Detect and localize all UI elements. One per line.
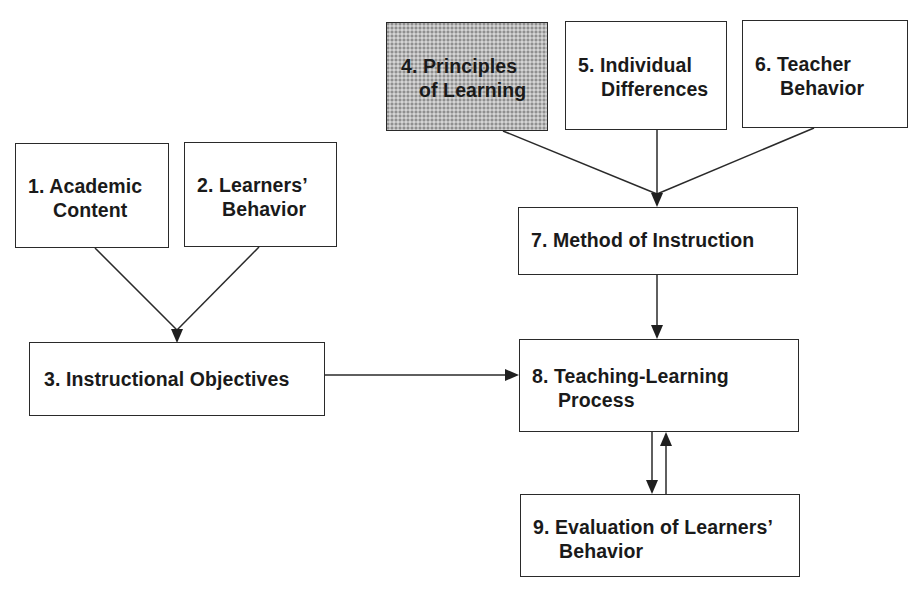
node-9-label-line1: 9. Evaluation of Learners’	[533, 515, 773, 539]
edge-2-to-3	[177, 247, 259, 330]
node-5-label-line2: Differences	[601, 77, 708, 101]
node-4-label-line1: 4. Principles	[401, 54, 517, 78]
node-teaching-learning-process: 8. Teaching-Learning Process	[519, 339, 799, 432]
node-8-label-line1: 8. Teaching-Learning	[532, 364, 729, 388]
node-1-label-line1: 1. Academic	[28, 174, 142, 198]
node-8-label-line2: Process	[558, 388, 635, 412]
node-academic-content: 1. Academic Content	[15, 143, 169, 248]
node-6-label-line1: 6. Teacher	[755, 52, 851, 76]
node-4-label-line2: of Learning	[419, 78, 526, 102]
node-principles-of-learning: 4. Principles of Learning	[386, 22, 548, 131]
arrowhead-into-7	[651, 193, 663, 207]
node-7-label-line1: 7. Method of Instruction	[531, 228, 754, 252]
node-5-label-line1: 5. Individual	[578, 53, 692, 77]
node-evaluation-of-learners-behavior: 9. Evaluation of Learners’ Behavior	[520, 494, 800, 577]
node-1-label-line2: Content	[53, 198, 127, 222]
arrowhead-into-8-top	[651, 325, 663, 339]
arrowhead-into-8-bottom	[660, 432, 672, 446]
node-3-label-line1: 3. Instructional Objectives	[44, 367, 289, 391]
node-2-label-line2: Behavior	[222, 197, 306, 221]
node-2-label-line1: 2. Learners’	[197, 173, 308, 197]
node-9-label-line2: Behavior	[559, 539, 643, 563]
node-individual-differences: 5. Individual Differences	[565, 21, 727, 130]
node-instructional-objectives: 3. Instructional Objectives	[29, 342, 325, 416]
arrowhead-into-3	[171, 329, 183, 343]
node-6-label-line2: Behavior	[780, 76, 864, 100]
edge-1-to-3	[95, 248, 177, 330]
node-method-of-instruction: 7. Method of Instruction	[518, 207, 798, 275]
node-learners-behavior: 2. Learners’ Behavior	[184, 142, 337, 247]
arrowhead-into-9	[646, 480, 658, 494]
edge-4-to-7	[503, 131, 657, 194]
arrowhead-into-8-left	[505, 369, 519, 381]
node-teacher-behavior: 6. Teacher Behavior	[742, 20, 908, 128]
edge-6-to-7	[657, 128, 814, 194]
